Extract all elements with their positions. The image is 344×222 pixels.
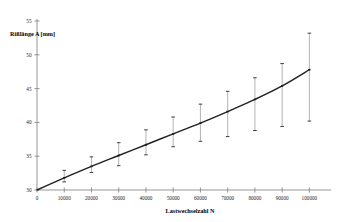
y-tick-label: 40 — [26, 119, 32, 125]
data-point-marker — [281, 85, 283, 87]
y-tick-label: 55 — [26, 18, 32, 24]
y-tick-label: 35 — [26, 153, 32, 159]
x-tick-label: 80000 — [248, 195, 261, 201]
x-tick-label: 100000 — [302, 195, 318, 201]
x-tick-label: 40000 — [139, 195, 152, 201]
x-tick-label: 60000 — [194, 195, 207, 201]
data-point-marker — [308, 69, 310, 71]
y-tick-label: 45 — [26, 86, 32, 92]
y-tick-label: 30 — [26, 187, 32, 193]
y-tick-label: 50 — [26, 52, 32, 58]
data-point-marker — [199, 122, 201, 124]
data-point-marker — [145, 144, 147, 146]
x-tick-label: 30000 — [112, 195, 125, 201]
x-tick-label: 20000 — [85, 195, 98, 201]
chart-container: 303540455055 010000200003000040000500006… — [0, 0, 344, 222]
x-tick-label: 90000 — [276, 195, 289, 201]
x-tick-label: 0 — [36, 195, 39, 201]
data-point-marker — [63, 177, 65, 179]
data-point-marker — [227, 111, 229, 113]
y-axis-title: Rißlänge A [mm] — [10, 30, 55, 37]
x-axis-title: Lastwechselzahl N — [166, 207, 216, 214]
x-tick-label: 50000 — [167, 195, 180, 201]
data-point-marker — [118, 155, 120, 157]
data-point-marker — [254, 99, 256, 101]
data-point-marker — [90, 166, 92, 168]
x-tick-label: 70000 — [221, 195, 234, 201]
data-point-marker — [172, 133, 174, 135]
x-tick-label: 10000 — [58, 195, 71, 201]
crack-length-chart: 303540455055 010000200003000040000500006… — [0, 0, 344, 222]
